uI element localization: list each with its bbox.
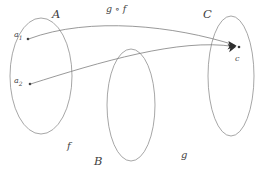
map-label-f: f bbox=[67, 141, 71, 151]
element-dot-c bbox=[238, 46, 241, 49]
element-label-a1-subscript: 1 bbox=[19, 34, 23, 41]
set-label-b: B bbox=[94, 156, 102, 168]
map-label-g: g bbox=[181, 150, 187, 160]
function-composition-diagram: A B C a1 a2 c f g g ∘ f bbox=[0, 0, 261, 176]
element-label-c: c bbox=[235, 55, 239, 63]
set-label-a: A bbox=[52, 9, 60, 21]
set-ellipse-b bbox=[107, 49, 155, 161]
element-label-a2: a2 bbox=[14, 77, 23, 87]
set-ellipse-c bbox=[208, 16, 254, 136]
composite-arrow-a2-to-c bbox=[31, 45, 234, 84]
set-label-c: C bbox=[203, 9, 212, 21]
element-label-a2-subscript: 2 bbox=[19, 80, 23, 87]
element-label-a1: a1 bbox=[14, 31, 23, 41]
composition-label-g-after-f: g ∘ f bbox=[106, 4, 126, 14]
diagram-canvas bbox=[0, 0, 261, 176]
